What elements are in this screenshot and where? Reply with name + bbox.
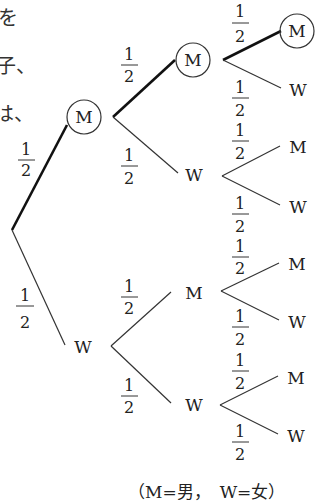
svg-text:2: 2 [235, 330, 245, 349]
branch-M-W [113, 117, 178, 173]
node-WWM: M [287, 368, 304, 388]
prob-MM-W: 1 2 [232, 78, 249, 120]
prob-MM-M: 1 2 [232, 2, 249, 46]
node-WMW: W [288, 312, 306, 332]
svg-text:1: 1 [21, 140, 31, 159]
svg-text:1: 1 [124, 45, 134, 64]
node-MM: M [184, 50, 201, 70]
node-MMM: M [288, 21, 305, 41]
branch-WM-W [221, 291, 279, 320]
svg-text:1: 1 [124, 277, 134, 296]
prob-M-M: 1 2 [121, 45, 138, 86]
svg-text:1: 1 [235, 194, 245, 213]
svg-text:1: 1 [235, 307, 245, 326]
svg-text:2: 2 [124, 398, 134, 417]
svg-text:1: 1 [235, 121, 245, 140]
svg-text:1: 1 [235, 422, 245, 441]
svg-text:2: 2 [21, 161, 31, 180]
svg-text:2: 2 [124, 169, 134, 188]
node-MWW: W [289, 197, 307, 217]
probability-tree-diagram: M W 1 2 1 2 M W M W 1 2 1 2 1 2 1 2 [0, 0, 318, 501]
svg-text:2: 2 [235, 217, 245, 236]
node-root-W: W [74, 337, 92, 357]
node-MW: W [185, 165, 203, 185]
svg-text:1: 1 [124, 376, 134, 395]
node-root-M: M [75, 107, 92, 127]
prob-W-M: 1 2 [121, 277, 138, 318]
prob-WM-W: 1 2 [232, 307, 249, 349]
legend-caption: （M=男， W=女） [128, 478, 285, 501]
prob-M-W: 1 2 [121, 146, 138, 188]
svg-text:2: 2 [235, 374, 245, 393]
svg-text:1: 1 [235, 351, 245, 370]
node-WWW: W [287, 426, 305, 446]
branch-WW-M [220, 376, 278, 405]
prob-WW-W: 1 2 [232, 422, 249, 464]
branch-W-M [111, 292, 171, 346]
svg-text:1: 1 [235, 78, 245, 97]
prob-WW-M: 1 2 [232, 351, 249, 393]
prob-WM-M: 1 2 [232, 237, 249, 278]
node-WMM: M [288, 254, 305, 274]
svg-text:2: 2 [235, 101, 245, 120]
svg-text:2: 2 [235, 27, 245, 46]
node-WM: M [185, 283, 202, 303]
prob-root-M: 1 2 [18, 140, 35, 180]
branch-MW-M [222, 146, 280, 176]
svg-text:1: 1 [124, 146, 134, 165]
svg-text:1: 1 [20, 286, 30, 305]
branch-MM-W [223, 60, 281, 88]
branch-WM-M [221, 263, 279, 291]
branch-W-W [111, 346, 171, 403]
prob-W-W: 1 2 [121, 376, 138, 417]
node-WW: W [185, 395, 203, 415]
branch-MW-W [222, 176, 280, 205]
prob-MW-W: 1 2 [232, 194, 249, 236]
svg-text:2: 2 [235, 144, 245, 163]
node-MMW: W [289, 80, 307, 100]
prob-MW-M: 1 2 [232, 121, 249, 163]
branch-M-M [113, 60, 175, 117]
svg-text:2: 2 [235, 445, 245, 464]
node-MWM: M [289, 137, 306, 157]
branch-MM-M [223, 31, 281, 60]
svg-text:1: 1 [235, 2, 245, 21]
svg-text:2: 2 [20, 313, 30, 332]
prob-root-W: 1 2 [16, 286, 34, 332]
svg-text:2: 2 [235, 259, 245, 278]
svg-text:2: 2 [124, 67, 134, 86]
branch-WW-W [220, 405, 278, 434]
svg-text:2: 2 [124, 299, 134, 318]
svg-text:1: 1 [235, 237, 245, 256]
